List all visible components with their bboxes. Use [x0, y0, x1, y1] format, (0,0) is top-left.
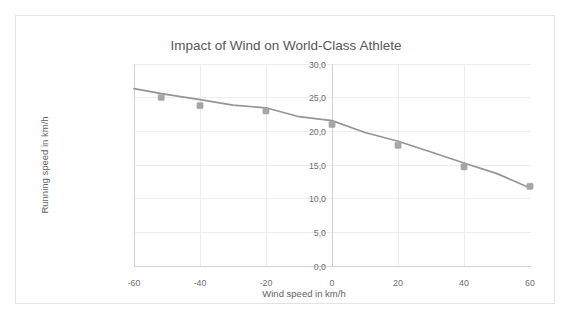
chart-title: Impact of Wind on World-Class Athlete — [171, 38, 402, 53]
data-point-marker — [263, 108, 269, 114]
data-point-marker — [527, 183, 533, 189]
y-tick-label: 10,0 — [309, 194, 326, 204]
y-tick-label: 5,0 — [314, 228, 326, 238]
x-tick-label: -20 — [260, 278, 273, 288]
x-tick-label: 60 — [525, 278, 535, 288]
chart-card: Impact of Wind on World-Class Athlete — [15, 15, 555, 304]
x-tick-label: 20 — [393, 278, 403, 288]
y-tick-label: 25,0 — [309, 93, 326, 103]
y-tick-label: 20,0 — [309, 127, 326, 137]
x-axis-tick-labels: -60 -40 -20 0 20 40 60 — [128, 278, 535, 288]
data-point-marker — [461, 164, 467, 170]
x-axis-title: Wind speed in km/h — [262, 288, 345, 299]
x-tick-label: 0 — [330, 278, 335, 288]
x-tick-label: 40 — [459, 278, 469, 288]
y-tick-label: 0,0 — [314, 262, 326, 272]
y-tick-label: 15,0 — [309, 161, 326, 171]
y-axis-title: Running speed in km/h — [39, 116, 50, 213]
line-chart: Impact of Wind on World-Class Athlete — [16, 16, 556, 305]
data-point-marker — [158, 94, 164, 100]
data-point-marker — [329, 121, 335, 127]
data-point-marker — [197, 103, 203, 109]
data-point-marker — [395, 142, 401, 148]
series-markers — [158, 94, 533, 189]
y-axis-tick-labels: 30,0 25,0 20,0 15,0 10,0 5,0 0,0 — [309, 60, 326, 272]
x-tick-label: -40 — [194, 278, 207, 288]
x-tick-label: -60 — [128, 278, 141, 288]
y-tick-label: 30,0 — [309, 60, 326, 70]
